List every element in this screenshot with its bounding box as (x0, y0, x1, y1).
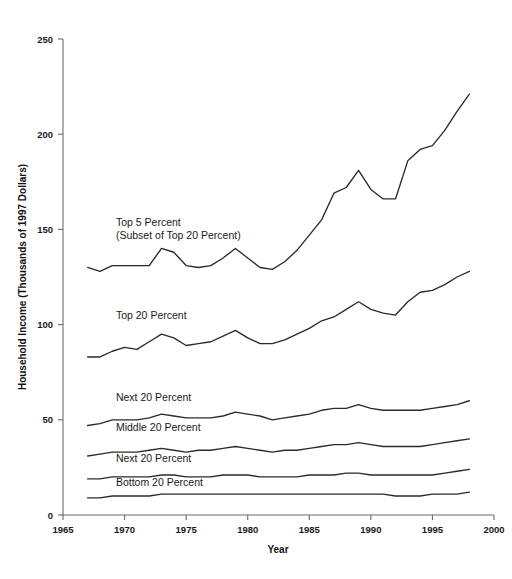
y-tick-label: 250 (37, 34, 53, 45)
y-tick-label: 0 (48, 510, 53, 521)
series-paths (88, 94, 470, 498)
series-annotation-next-20-percent: Next 20 Percent (116, 391, 191, 403)
axes (63, 39, 494, 515)
x-tick-label: 1970 (114, 524, 135, 535)
y-tick-label: 200 (37, 129, 53, 140)
series-annotation-top-5-percent: Top 5 Percent (116, 216, 181, 228)
y-tick-label: 50 (42, 414, 53, 425)
series-annotation-middle-20-percent: Middle 20 Percent (116, 421, 201, 433)
series-annotation-subset-of-top-20-percent: (Subset of Top 20 Percent) (116, 229, 241, 241)
x-axis-ticks: 19651970197519801985199019952000 (52, 515, 504, 535)
x-tick-label: 1965 (52, 524, 74, 535)
series-annotation-top-20-percent: Top 20 Percent (116, 309, 187, 321)
x-axis-title: Year (267, 544, 288, 555)
series-line-top-5-percent (88, 94, 470, 271)
y-tick-label: 100 (37, 319, 53, 330)
y-tick-label: 150 (37, 224, 53, 235)
x-tick-label: 1995 (422, 524, 444, 535)
x-tick-label: 1990 (360, 524, 381, 535)
y-axis-title: Household Income (Thousands of 1997 Doll… (17, 164, 28, 390)
series-annotation-next-20-percent: Next 20 Percent (116, 452, 191, 464)
income-quintile-line-chart: 050100150200250 196519701975198019851990… (0, 0, 512, 579)
chart-page: 050100150200250 196519701975198019851990… (0, 0, 512, 579)
y-axis-ticks: 050100150200250 (37, 34, 63, 521)
x-tick-label: 1975 (176, 524, 198, 535)
x-tick-label: 1980 (237, 524, 258, 535)
x-tick-label: 2000 (483, 524, 504, 535)
series-line-bottom-20-percent (88, 492, 470, 498)
x-tick-label: 1985 (299, 524, 321, 535)
series-annotation-bottom-20-percent: Bottom 20 Percent (116, 476, 203, 488)
